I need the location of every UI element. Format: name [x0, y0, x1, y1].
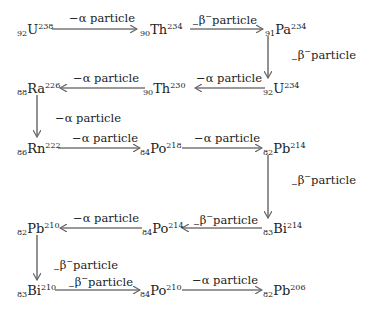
beta-label: −β−particle: [53, 258, 118, 274]
alpha-label: −α particle: [196, 73, 262, 85]
beta-label: −β−particle: [291, 173, 356, 189]
nuclide-th234: 90Th234: [140, 23, 183, 38]
nuclide-pa234: 91Pa234: [265, 23, 306, 38]
alpha-label: −α particle: [73, 73, 139, 85]
nuclide-po210: 84Po210: [140, 284, 182, 299]
beta-label: −β−particle: [193, 213, 258, 229]
nuclide-pb214: 82Pb214: [263, 142, 306, 157]
nuclide-po214: 84Po214: [142, 222, 184, 237]
nuclide-pb206: 82Pb206: [263, 284, 306, 299]
nuclide-bi210: 83Bi210: [17, 284, 56, 299]
nuclide-pb210: 82Pb210: [17, 222, 60, 237]
alpha-label: −α particle: [55, 113, 121, 125]
nuclide-th230: 90Th230: [143, 82, 186, 97]
nuclide-bi214: 83Bi214: [263, 222, 302, 237]
nuclide-po218: 84Po218: [140, 142, 182, 157]
alpha-label: −α particle: [194, 133, 260, 145]
nuclide-rn222: 86Rn222: [17, 142, 61, 157]
alpha-label: −α particle: [73, 213, 139, 225]
beta-label: −β−particle: [291, 48, 356, 64]
alpha-label: −α particle: [192, 275, 258, 287]
beta-label: −β−particle: [192, 13, 257, 29]
alpha-label: −α particle: [72, 133, 138, 145]
alpha-label: −α particle: [69, 13, 135, 25]
beta-label: −β−particle: [68, 275, 133, 291]
nuclide-u238: 92U238: [17, 23, 53, 38]
nuclide-u234: 92U234: [263, 82, 299, 97]
nuclide-ra226: 88Ra226: [17, 82, 60, 97]
